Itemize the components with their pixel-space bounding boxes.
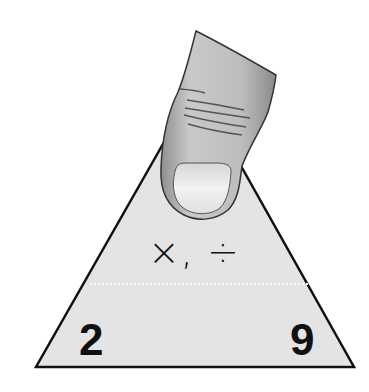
fact-triangle-figure: ×, ÷ 2 9	[0, 0, 369, 392]
bottom-right-number: 9	[290, 318, 314, 362]
finger-icon	[161, 31, 276, 219]
operations-label: ×, ÷	[148, 233, 240, 271]
bottom-left-number: 2	[79, 318, 103, 362]
